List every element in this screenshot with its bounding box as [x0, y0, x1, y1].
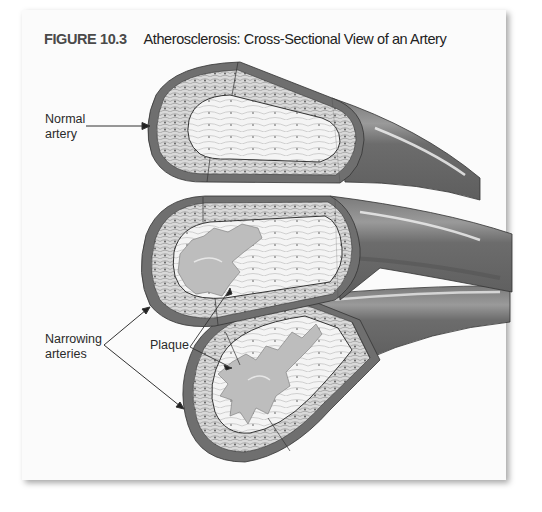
narrowing-arteries-label-line1: Narrowing: [45, 332, 102, 347]
narrowing-arteries-label-line2: arteries: [45, 347, 102, 362]
artery-illustration: [0, 0, 542, 512]
normal-artery-label-line1: Normal: [45, 112, 85, 127]
narrowing-arteries-label: Narrowing arteries: [45, 332, 102, 362]
normal-artery: [148, 62, 480, 200]
normal-artery-label-line2: artery: [45, 127, 85, 142]
narrowing-arteries-pointer: [104, 307, 184, 409]
normal-artery-label: Normal artery: [45, 112, 85, 142]
plaque-label: Plaque: [150, 338, 189, 353]
normal-artery-pointer: [86, 123, 150, 130]
